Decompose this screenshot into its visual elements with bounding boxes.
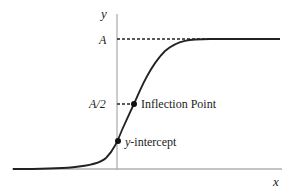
half-level-label: A/2 <box>88 97 106 111</box>
y-intercept-marker <box>115 138 121 144</box>
inflection-point-label: Inflection Point <box>141 97 217 111</box>
x-axis-label: x <box>272 174 279 189</box>
y-axis-label: y <box>99 6 107 21</box>
logistic-diagram: y x A A/2 Inflection Point y-intercept <box>0 0 294 191</box>
inflection-point-marker <box>131 101 137 107</box>
asymptote-label: A <box>98 33 107 47</box>
y-intercept-label: y-intercept <box>124 135 177 149</box>
